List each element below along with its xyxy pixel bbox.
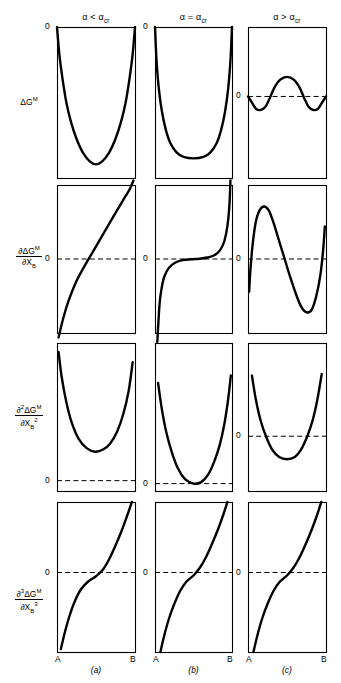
curve-d2-b [158,376,231,484]
panel-frame-d3-c [249,503,327,653]
plot-canvas [0,0,341,683]
panel-frame-g-b [156,28,233,179]
zero-label-g-a: 0 [45,22,50,31]
zero-label-d2-b: 0 [143,479,148,488]
zero-label-d2-a: 0 [45,476,50,485]
curve-d3-c [253,502,321,652]
zero-label-d3-c: 0 [236,568,241,577]
zero-label-d3-b: 0 [143,568,148,577]
curve-d2-a [59,352,133,452]
axis-endpoint-right-b: B [227,655,233,664]
axis-endpoint-right-c: B [321,655,327,664]
panel-frame-d3-b [156,503,233,653]
zero-label-d1-a: 0 [45,254,50,263]
curve-d3-b [160,502,227,652]
panel-letter-a: (a) [57,666,135,675]
panel-frame-d2-b [156,344,233,492]
axis-endpoint-left-a: A [55,655,61,664]
curve-d3-a [61,502,132,649]
panel-letter-c: (c) [248,666,326,675]
axis-endpoint-right-a: B [130,655,136,664]
curve-d1-b [157,181,230,342]
zero-label-d1-c: 0 [236,254,241,263]
figure-root: α < αcr α = αcr α > αcr ΔGM ∂ΔGM ∂XB ∂2Δ… [0,0,341,683]
curve-g-c [248,77,326,110]
zero-label-d3-a: 0 [45,568,50,577]
panel-frame-g-c [249,28,327,179]
axis-endpoint-left-c: A [246,655,252,664]
axis-endpoint-left-b: A [153,655,159,664]
zero-label-g-c: 0 [236,91,241,100]
curve-g-b [155,27,232,158]
zero-label-g-b: 0 [143,22,148,31]
curve-d2-c [252,374,322,459]
zero-label-d1-b: 0 [143,254,148,263]
panel-letter-b: (b) [155,666,232,675]
panel-frame-g-a [58,28,136,179]
zero-label-d2-c: 0 [236,431,241,440]
curve-g-a [57,27,135,164]
